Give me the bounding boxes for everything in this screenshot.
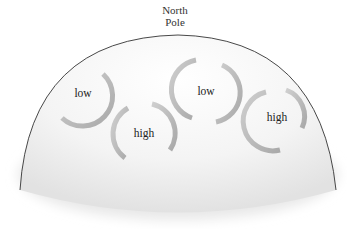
pressure-label-high-2: high bbox=[267, 111, 287, 123]
north-pole-label-line1: North bbox=[150, 4, 200, 16]
dome-diagram bbox=[0, 0, 347, 235]
pressure-label-low-2: low bbox=[197, 85, 214, 97]
pressure-label-low-1: low bbox=[74, 87, 91, 99]
diagram-canvas: North Pole low high low high bbox=[0, 0, 347, 235]
pressure-label-high-1: high bbox=[134, 127, 154, 139]
north-pole-label: North Pole bbox=[150, 4, 200, 28]
north-pole-label-line2: Pole bbox=[150, 16, 200, 28]
